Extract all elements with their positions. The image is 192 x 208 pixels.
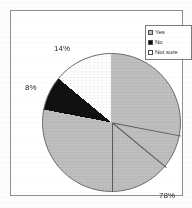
legend-swatch-white-icon — [148, 50, 153, 55]
legend-item-not-sure: Not sure — [148, 48, 189, 57]
slice-label-not-sure: 14% — [54, 44, 70, 53]
figure-frame: 14% 8% 78% Yes No Not sure — [10, 10, 183, 196]
legend-item-no: No — [148, 38, 189, 47]
legend: Yes No Not sure — [145, 25, 192, 60]
slice-label-no: 8% — [25, 83, 37, 92]
legend-item-yes: Yes — [148, 28, 189, 37]
pie-chart — [42, 53, 181, 192]
scanned-page: 14% 8% 78% Yes No Not sure — [0, 0, 192, 208]
legend-swatch-gray-icon — [148, 30, 153, 35]
legend-label-not-sure: Not sure — [155, 49, 178, 56]
slice-label-yes: 78% — [159, 191, 175, 200]
legend-swatch-black-icon — [148, 40, 153, 45]
legend-label-yes: Yes — [155, 29, 165, 36]
legend-label-no: No — [155, 39, 163, 46]
slice-divider-start — [112, 123, 113, 193]
